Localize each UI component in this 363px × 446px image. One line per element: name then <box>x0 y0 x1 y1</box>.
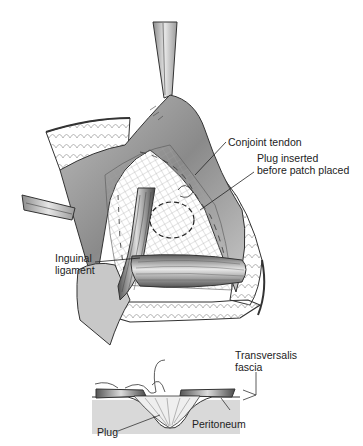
label-plug-inserted-line1: Plug inserted <box>257 152 318 164</box>
label-transversalis-line2: fascia <box>235 361 262 373</box>
label-conjoint-tendon: Conjoint tendon <box>228 136 302 148</box>
label-plug-inserted-line2: before patch placed <box>257 164 349 176</box>
top-retractor <box>153 22 177 98</box>
label-plug: Plug <box>97 426 118 438</box>
label-inguinal-line1: Inguinal <box>55 252 92 264</box>
left-retractor <box>22 195 75 220</box>
label-inguinal-line2: ligament <box>55 264 95 276</box>
label-peritoneum: Peritoneum <box>192 418 246 430</box>
surgical-drawing <box>0 0 363 446</box>
hernia-repair-illustration: Conjoint tendon Plug inserted before pat… <box>0 0 363 446</box>
label-transversalis-line1: Transversalis <box>235 349 297 361</box>
inguinal-ligament-muscle <box>131 255 246 288</box>
